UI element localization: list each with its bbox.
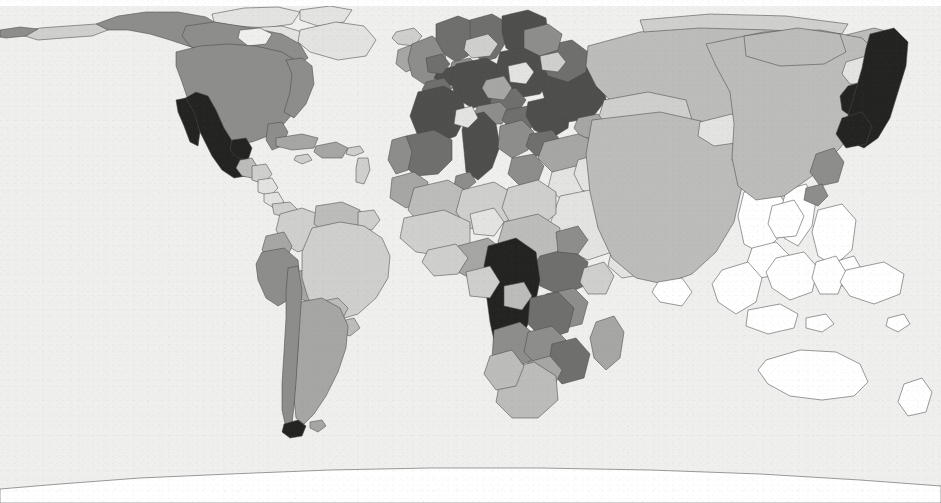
region-portugal [388,136,412,174]
region-puerto-rico [346,146,364,156]
region-greenland [298,22,376,60]
region-argentina [294,298,348,424]
region-falklands [310,420,326,432]
region-java [746,304,798,334]
region-australia [758,350,868,400]
region-sumatra [712,262,762,314]
region-madagascar [590,316,624,370]
region-new-zealand [898,378,932,416]
region-timor [806,314,834,332]
region-lesser-antilles [356,158,370,184]
region-antarctica [0,468,941,503]
region-group-north-america [0,6,376,218]
region-pacific-islands [886,314,910,332]
plate-band-top [0,0,941,6]
region-hispaniola [314,142,348,158]
region-group-antarctica [0,468,941,503]
world-cartogram-map [0,0,941,503]
region-sri-lanka [652,278,692,306]
region-group-east-asia [706,28,908,206]
region-group-south-america [256,202,390,438]
cartogram-figure: World cartogram: countries resized by po… [0,0,941,503]
region-jamaica [294,154,312,164]
